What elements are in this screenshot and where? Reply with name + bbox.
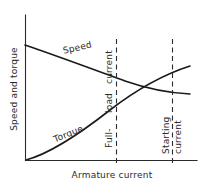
- y-axis-label: Speed and torque: [9, 34, 19, 144]
- full-load-current-label-part-2: load: [104, 93, 114, 113]
- x-axis-label: Armature current: [47, 170, 177, 180]
- full-load-current-label-part-1: Full-: [104, 128, 114, 148]
- chart-plot-area: [0, 0, 198, 186]
- starting-current-label-part-2: current: [173, 120, 183, 154]
- full-load-current-label-part-3: current: [104, 50, 114, 84]
- chart-figure: Speed and torque Armature current Speed …: [0, 0, 198, 186]
- starting-current-label-part-1: Starting: [161, 116, 171, 154]
